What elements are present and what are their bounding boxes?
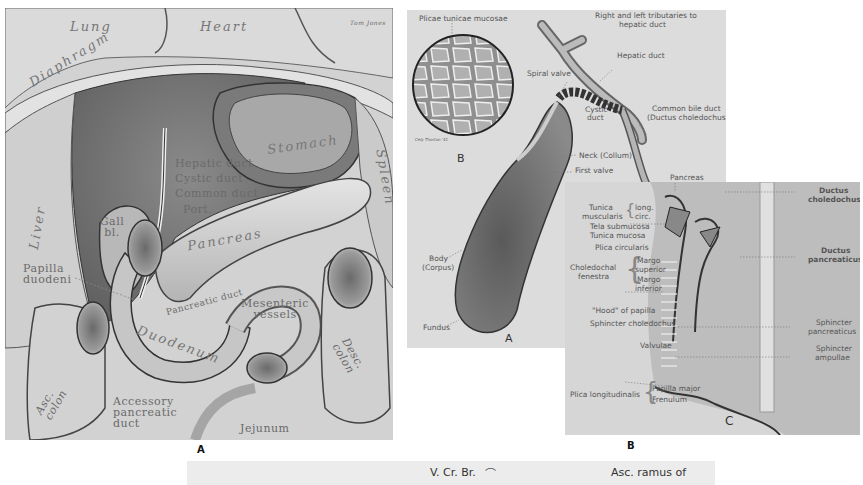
label-circ: circ. bbox=[635, 213, 651, 221]
figure-b-letter: B bbox=[627, 440, 635, 451]
label-fundus: Fundus bbox=[423, 324, 450, 332]
label-heart: Heart bbox=[200, 20, 248, 33]
label-valvulae: Valvulae bbox=[640, 342, 672, 350]
label-margo-inferior-line1: Margo bbox=[637, 276, 660, 284]
label-tunica-muscularis-line1: Tunica bbox=[589, 204, 613, 212]
label-hepatic-duct: Hepatic duct bbox=[617, 52, 665, 60]
label-cystic-duct: Cystic duct bbox=[175, 173, 243, 184]
label-margo-superior-line2: superior bbox=[635, 266, 666, 274]
label-gall-bladder: Gall bl. bbox=[97, 216, 127, 238]
label-margo-superior-line1: Margo bbox=[637, 257, 660, 265]
label-papilla-major: Papilla major bbox=[652, 385, 700, 393]
next-figure-strip: V. Cr. Br. ⌒ Asc. ramus of bbox=[187, 461, 715, 485]
label-choledochal-fenestra-line2: fenestra bbox=[578, 273, 609, 281]
label-long: long. bbox=[635, 204, 654, 212]
label-accessory-pancreatic-duct: Accessory pancreatic duct bbox=[113, 396, 193, 429]
label-sphincter-pancreaticus-line2: pancreaticus bbox=[808, 328, 856, 336]
label-choledochal-fenestra-line1: Choledochal bbox=[570, 264, 616, 272]
label-plica-longitudinalis: Plica longitudinalis bbox=[570, 391, 640, 399]
label-tunica-mucosa: Tunica mucosa bbox=[590, 232, 645, 240]
label-tributaries-line1: Right and left tributaries to bbox=[595, 12, 697, 20]
figure-c-letter: C bbox=[725, 415, 733, 427]
label-first-valve: First valve bbox=[575, 167, 613, 175]
label-asc-ramus: Asc. ramus of bbox=[611, 467, 686, 478]
brace-muscularis: { bbox=[625, 202, 635, 218]
label-neck: Neck (Collum) bbox=[579, 152, 632, 160]
figure-c-papilla-section: Ductus choledochus Ductus pancreaticus T… bbox=[565, 182, 860, 435]
label-ductus-pancreaticus-line1: Ductus bbox=[821, 247, 850, 255]
label-common-bile-duct-line1: Common bile duct bbox=[652, 105, 721, 113]
label-frenulum: Frenulum bbox=[652, 396, 687, 404]
label-sphincter-ampullae-line1: Sphincter bbox=[816, 345, 852, 353]
label-ductus-choledochus-line1: Ductus bbox=[819, 187, 848, 195]
pointer-arrow-icon: ⌒ bbox=[485, 469, 496, 480]
label-plicae-tunicae-mucosae: Plicae tunicae mucosae bbox=[419, 15, 508, 23]
sub-letter-a: A bbox=[505, 333, 513, 344]
artist-signature: Cely Thorton '41 bbox=[415, 138, 448, 142]
label-body: Body bbox=[429, 255, 448, 263]
label-tela-submucosa: Tela submucosa bbox=[590, 223, 650, 231]
label-spiral-valve: Spiral valve bbox=[527, 70, 571, 78]
label-corpus: (Corpus) bbox=[422, 264, 454, 272]
label-common-bile-duct-line2: (Ductus choledochus) bbox=[647, 114, 726, 122]
label-hepatic-duct: Hepatic duct bbox=[175, 158, 253, 169]
label-pancreas-c: Pancreas bbox=[668, 174, 706, 182]
label-tributaries-line2: hepatic duct bbox=[619, 21, 666, 29]
label-ductus-pancreaticus-line2: pancreaticus bbox=[808, 256, 860, 264]
label-hood-of-papilla: "Hood" of papilla bbox=[592, 307, 655, 315]
abdominal-organs-drawing bbox=[5, 8, 393, 440]
label-jejunum: Jejunum bbox=[240, 423, 290, 434]
figure-a-abdominal-illustration: Lung Heart Tom Jones Diaphragm Liver Sto… bbox=[5, 8, 393, 440]
inset-letter-b: B bbox=[457, 153, 465, 164]
label-ductus-choledochus-line2: choledochus bbox=[808, 196, 860, 204]
figure-a-letter: A bbox=[197, 444, 205, 455]
label-papilla-duodeni: Papilla duodeni bbox=[23, 263, 83, 285]
label-mesenteric-vessels: Mesenteric vessels bbox=[240, 298, 310, 320]
label-cystic-duct-line2: duct bbox=[587, 114, 604, 122]
label-tunica-muscularis-line2: muscularis bbox=[582, 213, 623, 221]
label-portal: Port. bbox=[183, 204, 212, 215]
label-common-duct: Common duct bbox=[175, 188, 258, 199]
label-v-cr-br: V. Cr. Br. bbox=[430, 467, 476, 478]
label-sphincter-choledochus: Sphincter choledochus bbox=[590, 320, 675, 328]
artist-signature: Tom Jones bbox=[350, 20, 386, 26]
label-sphincter-pancreaticus-line1: Sphincter bbox=[816, 319, 852, 327]
label-sphincter-ampullae-line2: ampullae bbox=[815, 354, 850, 362]
label-margo-inferior-line2: inferior bbox=[635, 285, 662, 293]
